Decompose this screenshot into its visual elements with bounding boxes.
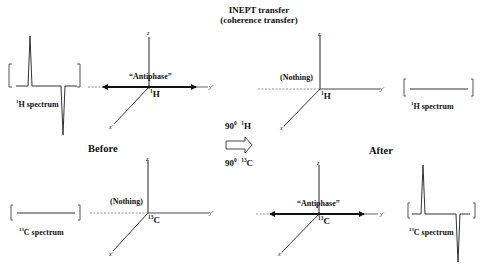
c-after-state-label: “Antiphase”: [297, 200, 340, 208]
h-before-spectrum: [9, 36, 80, 135]
pulse-label-h: 900 1H: [225, 122, 251, 131]
c-after-nucleus-label: 13C: [318, 217, 330, 226]
diagram-title: INEPT transfer (coherence transfer): [215, 6, 303, 25]
c-after-z-axis-label: z: [317, 160, 319, 166]
h-before-z-axis-label: z: [147, 30, 149, 36]
c-after-x-axis-label: x': [278, 251, 282, 257]
h-before-x-axis-label: x': [109, 124, 113, 130]
c-after-spectrum-label: 13C spectrum: [409, 229, 454, 237]
c-before-x-axis-label: x': [109, 251, 113, 257]
after-label: After: [369, 146, 393, 157]
h-before-state-label: “Antiphase”: [129, 73, 172, 81]
inept-diagram: INEPT transfer (coherence transfer) 900 …: [0, 0, 486, 273]
h-after-nucleus-label: 1H: [321, 92, 331, 101]
c-before-state-label: (Nothing): [110, 198, 143, 206]
h-after-spectrum-label: 1H spectrum: [411, 103, 454, 111]
title-line-2: (coherence transfer): [215, 16, 303, 25]
h-after-spectrum: [404, 79, 473, 96]
h-after-x-axis-label: x': [280, 125, 284, 131]
c-after-axes: [256, 165, 378, 252]
c-before-y-axis-label: y': [209, 210, 213, 216]
h-before-spectrum-label: 1H spectrum: [16, 101, 59, 109]
h-after-state-label: (Nothing): [280, 74, 313, 82]
before-label: Before: [88, 144, 118, 155]
c-after-spectrum: [408, 165, 475, 262]
transfer-arrow-icon: [226, 137, 252, 153]
h-after-z-axis-label: z: [318, 31, 320, 37]
c-before-axes: [90, 160, 209, 251]
h-after-axes: [258, 35, 380, 126]
pulse-label-c: 900 13C: [225, 159, 253, 168]
h-before-y-axis-label: y': [209, 84, 213, 90]
c-before-spectrum-label: 13C spectrum: [19, 229, 64, 237]
c-before-nucleus-label: 13C: [148, 216, 160, 225]
c-after-y-axis-label: y': [380, 211, 384, 217]
title-line-1: INEPT transfer: [215, 6, 303, 15]
c-before-z-axis-label: z: [146, 156, 148, 162]
h-after-y-axis-label: y': [380, 86, 384, 92]
h-before-nucleus-label: 1H: [150, 90, 160, 99]
c-before-spectrum: [11, 205, 80, 220]
